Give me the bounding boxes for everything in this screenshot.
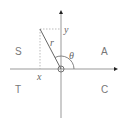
y-axis-arrow-icon [59, 10, 63, 14]
radius-line [40, 29, 61, 69]
y-label: y [63, 24, 69, 35]
cast-diagram: y r θ x S A T C [0, 0, 122, 132]
x-label: x [36, 71, 42, 82]
theta-label: θ [69, 50, 74, 61]
x-axis-arrow-icon [114, 67, 118, 71]
quadrant-t: T [15, 84, 21, 95]
quadrant-s: S [15, 46, 22, 57]
quadrant-c: C [101, 84, 108, 95]
r-label: r [50, 37, 54, 48]
quadrant-a: A [101, 46, 108, 57]
